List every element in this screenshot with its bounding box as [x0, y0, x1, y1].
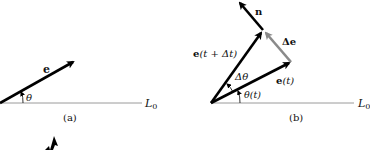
angle-arc-delta-theta [227, 84, 233, 92]
partial-arrowhead-fragment [45, 136, 58, 150]
delta-e-label: Δe [282, 36, 296, 47]
diagram-canvas: e θ L0 (a) n Δe e(t + Δt) e(t) Δθ θ(t) L… [0, 0, 370, 150]
e-t-dt-label: e(t + Δt) [193, 48, 237, 59]
n-label: n [255, 6, 263, 17]
vector-e-label: e [43, 63, 50, 76]
angle-arc-theta [21, 92, 23, 103]
panel-b: n Δe e(t + Δt) e(t) Δθ θ(t) L0 (b) [193, 3, 370, 123]
l0-label-b: L0 [357, 97, 370, 111]
delta-theta-label: Δθ [234, 71, 248, 82]
e-t-label: e(t) [276, 75, 294, 86]
caption-a: (a) [63, 112, 77, 123]
theta-t-label: θ(t) [244, 89, 261, 100]
caption-b: (b) [289, 112, 303, 123]
l0-label-a: L0 [144, 97, 157, 111]
vector-e-arrow [0, 62, 73, 103]
theta-label: θ [26, 92, 32, 103]
angle-arc-theta-t [238, 91, 240, 103]
panel-a: e θ L0 (a) [0, 62, 157, 123]
